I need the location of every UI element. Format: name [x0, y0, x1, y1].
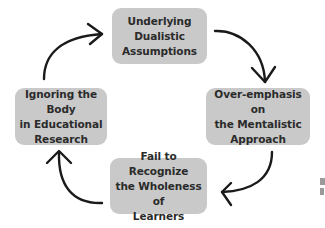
node-over-emphasis-mentalistic-approach: Over-emphasis on the Mentalistic Approac… [206, 88, 310, 145]
node-fail-to-recognize-wholeness: Fail to Recognize the Wholeness of Learn… [110, 158, 207, 214]
node-ignoring-the-body: Ignoring the Body in Educational Researc… [15, 88, 107, 145]
arrow-top-to-right [215, 31, 275, 82]
cropped-text-fragment [320, 188, 324, 195]
cropped-text-fragment [320, 178, 325, 185]
node-underlying-dualistic-assumptions: Underlying Dualistic Assumptions [112, 8, 207, 64]
arrow-left-to-top [44, 24, 102, 79]
arrow-bottom-to-left [47, 151, 102, 203]
arrow-right-to-bottom [222, 152, 272, 205]
